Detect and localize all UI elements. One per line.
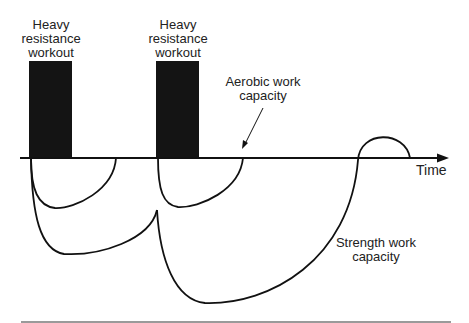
strength-label-line-1: Strength work — [334, 236, 418, 250]
workout-label-1-line-3: workout — [16, 46, 86, 60]
aerobic-curve-2 — [158, 158, 243, 207]
workout-label-2-line-3: workout — [143, 46, 213, 60]
aerobic-pointer-arrowhead-icon — [242, 140, 248, 149]
time-axis-label: Time — [416, 163, 447, 177]
aerobic-label-line-2: capacity — [225, 89, 301, 103]
aerobic-pointer-line — [245, 108, 263, 144]
workout-block-2 — [156, 61, 199, 158]
aerobic-curve-1 — [31, 158, 116, 208]
workout-block-1 — [29, 61, 72, 158]
strength-label-line-2: capacity — [334, 250, 418, 264]
workout-label-1-line-2: resistance — [16, 32, 86, 46]
supercompensation-bump — [358, 137, 410, 160]
workout-label-2: Heavy resistance workout — [143, 18, 213, 60]
workout-label-1-line-1: Heavy — [16, 18, 86, 32]
strength-curve-2 — [157, 160, 358, 303]
workout-label-2-line-2: resistance — [143, 32, 213, 46]
strength-work-capacity-label: Strength work capacity — [334, 236, 418, 264]
training-capacity-diagram: Heavy resistance workout Heavy resistanc… — [0, 0, 469, 323]
workout-label-2-line-1: Heavy — [143, 18, 213, 32]
workout-label-1: Heavy resistance workout — [16, 18, 86, 60]
aerobic-label-line-1: Aerobic work — [225, 75, 301, 89]
aerobic-work-capacity-label: Aerobic work capacity — [225, 75, 301, 103]
